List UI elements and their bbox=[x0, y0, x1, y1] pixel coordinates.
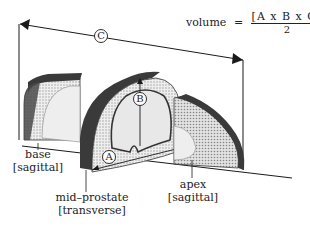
volume-formula: volume = [A x B x C] 2 bbox=[186, 10, 310, 35]
base-slice bbox=[24, 73, 82, 142]
mid-label-plane: [transverse] bbox=[52, 204, 132, 217]
mid-prostate-slice bbox=[80, 72, 182, 172]
formula-numerator: [A x B x C] bbox=[251, 10, 310, 24]
apex-label: apex [sagittal] bbox=[163, 178, 223, 204]
dimension-c-label: C bbox=[95, 29, 107, 42]
dimension-a-label: A bbox=[103, 150, 115, 163]
formula-lhs: volume bbox=[186, 16, 226, 29]
base-label-name: base bbox=[8, 148, 68, 161]
base-label: base [sagittal] bbox=[8, 148, 68, 174]
apex-label-plane: [sagittal] bbox=[163, 191, 223, 204]
dimension-b-label: B bbox=[134, 92, 146, 105]
mid-label-name: mid–prostate bbox=[52, 191, 132, 204]
formula-equals: = bbox=[234, 16, 243, 29]
base-label-plane: [sagittal] bbox=[8, 161, 68, 174]
formula-denominator: 2 bbox=[251, 24, 310, 35]
mid-prostate-label: mid–prostate [transverse] bbox=[52, 191, 132, 217]
apex-label-name: apex bbox=[163, 178, 223, 191]
apex-slice bbox=[174, 94, 244, 170]
formula-fraction: [A x B x C] 2 bbox=[251, 10, 310, 35]
